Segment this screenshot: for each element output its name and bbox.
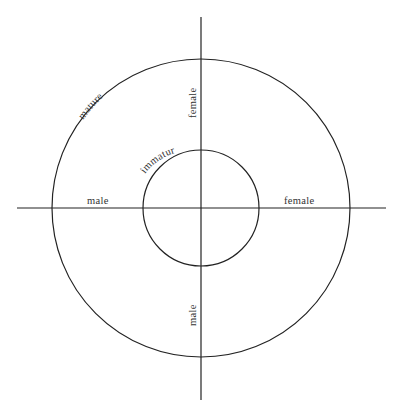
top-axis-label: female (187, 88, 198, 118)
sex-maturity-diagram: mature immature female male male female (0, 0, 401, 415)
bottom-axis-label: male (187, 304, 198, 326)
left-axis-label: male (87, 195, 109, 206)
right-axis-label: female (284, 195, 314, 206)
outer-circle-label: mature (76, 90, 105, 121)
inner-circle-label: immature (0, 0, 176, 175)
